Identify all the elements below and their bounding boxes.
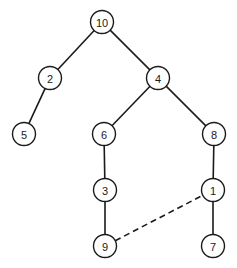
- node-10: 10: [91, 11, 114, 34]
- node-label: 9: [102, 241, 108, 253]
- tree-diagram: 10245683197: [0, 0, 237, 268]
- edge-9-1-dashed: [115, 195, 203, 240]
- node-3: 3: [94, 179, 117, 202]
- node-1: 1: [202, 179, 225, 202]
- node-5: 5: [13, 123, 36, 146]
- node-label: 3: [102, 185, 108, 197]
- node-label: 2: [47, 73, 53, 85]
- node-7: 7: [202, 235, 225, 258]
- edge-8-1: [213, 145, 214, 178]
- node-9: 9: [94, 235, 117, 258]
- edge-6-3: [104, 145, 105, 178]
- node-label: 1: [210, 185, 216, 197]
- node-2: 2: [39, 67, 62, 90]
- node-label: 10: [96, 17, 108, 29]
- nodes-layer: 10245683197: [13, 11, 226, 258]
- node-label: 6: [101, 129, 107, 141]
- edge-10-4: [110, 30, 150, 70]
- edge-10-2: [58, 30, 94, 69]
- edge-2-5: [29, 88, 45, 123]
- edge-4-6: [112, 86, 150, 125]
- node-6: 6: [93, 123, 116, 146]
- node-label: 4: [155, 73, 161, 85]
- node-4: 4: [147, 67, 170, 90]
- node-label: 5: [21, 129, 27, 141]
- node-8: 8: [203, 123, 226, 146]
- node-label: 8: [211, 129, 217, 141]
- node-label: 7: [210, 241, 216, 253]
- edge-4-8: [166, 86, 206, 126]
- edges-layer: [29, 30, 214, 241]
